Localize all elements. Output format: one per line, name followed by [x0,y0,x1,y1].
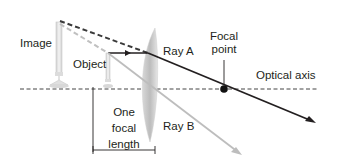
focal-point-label: Focal point [207,30,241,56]
focal-point-dot [220,85,228,93]
focal-length-label: One focal length [102,104,146,152]
object-label: Object [73,58,106,71]
ray-a-label: Ray A [163,45,194,58]
ray-a-refracted [148,53,312,121]
image-label: Image [20,37,52,50]
diagram-canvas [0,0,340,165]
ray-a-arrow-icon [125,50,131,56]
image-candle-icon [49,22,69,88]
ray-a-arrowhead-icon [305,116,316,123]
virtual-ray-b [60,24,108,53]
virtual-ray-a [60,21,148,53]
optical-axis-label: Optical axis [256,69,315,82]
lens-diagram: Image Object Ray A Ray B Focal point Opt… [0,0,340,165]
ray-b-label: Ray B [163,120,194,133]
